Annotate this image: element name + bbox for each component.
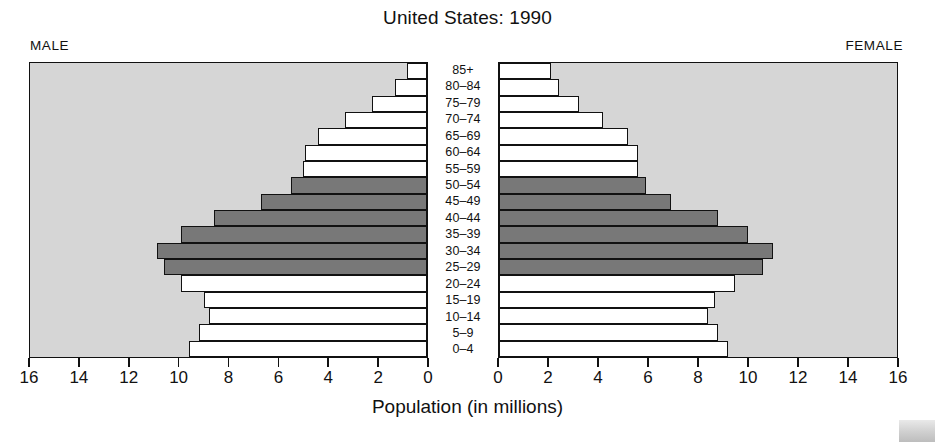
bar-row bbox=[30, 161, 427, 177]
bar-row bbox=[499, 112, 897, 128]
female-bar-40-44[interactable] bbox=[499, 210, 718, 226]
male-bar-0-4[interactable] bbox=[189, 341, 427, 357]
axis-tick bbox=[547, 358, 549, 367]
bar-row bbox=[30, 96, 427, 112]
male-bar-30-34[interactable] bbox=[157, 243, 427, 259]
axis-tick-label: 6 bbox=[258, 368, 298, 388]
axis-tick-label: 8 bbox=[678, 368, 718, 388]
bar-row bbox=[499, 259, 897, 275]
age-group-label: 40–44 bbox=[428, 210, 498, 226]
female-bar-0-4[interactable] bbox=[499, 341, 728, 357]
male-axis-label: MALE bbox=[30, 38, 69, 53]
bar-row bbox=[30, 194, 427, 210]
male-bar-10-14[interactable] bbox=[209, 308, 427, 324]
axis-tick bbox=[28, 358, 30, 367]
bar-row bbox=[30, 243, 427, 259]
bar-row bbox=[499, 324, 897, 340]
age-group-axis: 85+80–8475–7970–7465–6960–6455–5950–5445… bbox=[428, 62, 498, 358]
male-bar-55-59[interactable] bbox=[303, 161, 427, 177]
age-group-label: 85+ bbox=[428, 62, 498, 78]
female-bar-75-79[interactable] bbox=[499, 96, 579, 112]
male-bar-85+[interactable] bbox=[407, 63, 427, 79]
age-group-label: 25–29 bbox=[428, 259, 498, 275]
female-bar-65-69[interactable] bbox=[499, 128, 628, 144]
male-bar-60-64[interactable] bbox=[305, 145, 427, 161]
bar-row bbox=[30, 128, 427, 144]
bar-row bbox=[499, 292, 897, 308]
axis-tick bbox=[597, 358, 599, 367]
age-group-label: 80–84 bbox=[428, 78, 498, 94]
bar-row bbox=[499, 128, 897, 144]
male-bar-70-74[interactable] bbox=[345, 112, 427, 128]
bar-row bbox=[499, 79, 897, 95]
female-bar-35-39[interactable] bbox=[499, 226, 748, 242]
age-group-label: 50–54 bbox=[428, 177, 498, 193]
axis-tick bbox=[128, 358, 130, 367]
axis-tick-label: 12 bbox=[109, 368, 149, 388]
axis-tick-label: 2 bbox=[358, 368, 398, 388]
bar-row bbox=[30, 308, 427, 324]
female-bar-15-19[interactable] bbox=[499, 292, 715, 308]
axis-tick-label: 8 bbox=[209, 368, 249, 388]
axis-tick bbox=[497, 358, 499, 367]
female-bar-20-24[interactable] bbox=[499, 275, 735, 291]
male-bar-80-84[interactable] bbox=[395, 79, 427, 95]
male-bar-45-49[interactable] bbox=[261, 194, 427, 210]
female-bar-50-54[interactable] bbox=[499, 177, 646, 193]
age-group-label: 60–64 bbox=[428, 144, 498, 160]
page-corner-artifact bbox=[899, 420, 935, 442]
axis-tick bbox=[78, 358, 80, 367]
male-bar-35-39[interactable] bbox=[181, 226, 427, 242]
female-axis-label: FEMALE bbox=[845, 38, 903, 53]
age-group-label: 15–19 bbox=[428, 292, 498, 308]
axis-tick bbox=[847, 358, 849, 367]
axis-tick bbox=[897, 358, 899, 367]
age-group-label: 75–79 bbox=[428, 95, 498, 111]
male-plot-panel bbox=[29, 62, 428, 358]
male-bar-25-29[interactable] bbox=[164, 259, 427, 275]
female-bar-85+[interactable] bbox=[499, 63, 551, 79]
male-bar-20-24[interactable] bbox=[181, 275, 427, 291]
bar-row bbox=[499, 161, 897, 177]
bar-row bbox=[499, 177, 897, 193]
age-group-label: 55–59 bbox=[428, 161, 498, 177]
bar-row bbox=[30, 341, 427, 357]
bar-row bbox=[499, 341, 897, 357]
bar-row bbox=[499, 243, 897, 259]
age-group-label: 70–74 bbox=[428, 111, 498, 127]
axis-tick bbox=[427, 358, 429, 367]
female-bar-60-64[interactable] bbox=[499, 145, 638, 161]
male-bar-15-19[interactable] bbox=[204, 292, 427, 308]
axis-tick-label: 0 bbox=[408, 368, 448, 388]
bar-row bbox=[30, 145, 427, 161]
axis-tick-label: 12 bbox=[778, 368, 818, 388]
male-bar-75-79[interactable] bbox=[372, 96, 427, 112]
bar-row bbox=[30, 324, 427, 340]
female-bar-70-74[interactable] bbox=[499, 112, 603, 128]
page-title: United States: 1990 bbox=[0, 7, 935, 29]
axis-tick bbox=[747, 358, 749, 367]
axis-tick-label: 14 bbox=[59, 368, 99, 388]
male-bar-65-69[interactable] bbox=[318, 128, 427, 144]
male-bar-50-54[interactable] bbox=[291, 177, 427, 193]
axis-tick-label: 14 bbox=[828, 368, 868, 388]
age-group-label: 5–9 bbox=[428, 325, 498, 341]
female-bar-30-34[interactable] bbox=[499, 243, 773, 259]
bar-row bbox=[499, 210, 897, 226]
female-bar-45-49[interactable] bbox=[499, 194, 671, 210]
female-bar-55-59[interactable] bbox=[499, 161, 638, 177]
male-bar-40-44[interactable] bbox=[214, 210, 427, 226]
bar-row bbox=[499, 63, 897, 79]
female-bar-5-9[interactable] bbox=[499, 324, 718, 340]
female-bar-80-84[interactable] bbox=[499, 79, 559, 95]
male-bar-5-9[interactable] bbox=[199, 324, 427, 340]
bar-row bbox=[30, 210, 427, 226]
axis-tick bbox=[327, 358, 329, 367]
bar-row bbox=[499, 226, 897, 242]
female-bar-10-14[interactable] bbox=[499, 308, 708, 324]
bar-row bbox=[30, 292, 427, 308]
bar-row bbox=[499, 194, 897, 210]
age-group-label: 65–69 bbox=[428, 128, 498, 144]
bar-row bbox=[30, 226, 427, 242]
female-bar-25-29[interactable] bbox=[499, 259, 763, 275]
